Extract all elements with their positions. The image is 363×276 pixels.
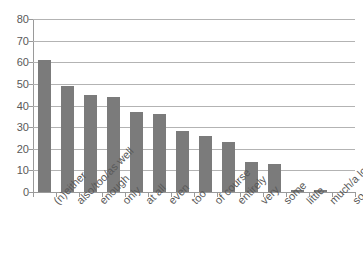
x-axis-tick-label: little — [304, 198, 312, 206]
bar-slot — [217, 19, 240, 192]
x-axis-tick-label: also/too/as well — [74, 198, 82, 206]
x-axis-tick-label: very — [258, 198, 266, 206]
x-axis-tick-label: at all — [143, 198, 151, 206]
x-axis-tick-label: so — [350, 198, 358, 206]
bar-slot — [79, 19, 102, 192]
bar-chart: 01020304050607080 (n)eitheralso/too/as w… — [0, 0, 363, 276]
bar[interactable] — [199, 136, 212, 192]
x-axis-tick-label: even — [166, 198, 174, 206]
x-axis-tick-label: some — [281, 198, 289, 206]
x-axis-tick-label: only — [120, 198, 128, 206]
x-axis-tick-label: (n)either — [51, 198, 59, 206]
x-axis-labels: (n)eitheralso/too/as wellenoughonlyat al… — [0, 196, 363, 276]
bar-slot — [263, 19, 286, 192]
bar-slot — [332, 19, 355, 192]
x-axis-tick-label: of course — [212, 198, 220, 206]
bar-slot — [125, 19, 148, 192]
x-axis-tick-label: much/a lot — [327, 198, 335, 206]
bar-slot — [286, 19, 309, 192]
bar-slot — [309, 19, 332, 192]
bar-slot — [33, 19, 56, 192]
bar-slot — [171, 19, 194, 192]
bar[interactable] — [153, 114, 166, 192]
bar-slot — [194, 19, 217, 192]
x-axis-tick-label: enough — [97, 198, 105, 206]
plot-area — [33, 19, 355, 192]
bar-slot — [56, 19, 79, 192]
x-axis-tick-label: too — [189, 198, 197, 206]
bar-slot — [148, 19, 171, 192]
bar[interactable] — [38, 60, 51, 192]
x-axis-tick-label: entirely — [235, 198, 243, 206]
